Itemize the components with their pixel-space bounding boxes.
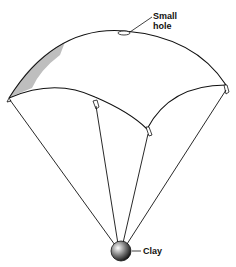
line-left — [10, 100, 115, 245]
parachute-drawing — [0, 0, 236, 267]
small-hole-label-line1: Small — [153, 11, 177, 21]
canopy-bottom-edge-left — [9, 88, 147, 129]
small-hole — [118, 31, 130, 35]
small-hole-label: Small hole — [153, 11, 177, 31]
canopy-bottom-edge-right — [147, 85, 226, 129]
clay-ball — [111, 241, 131, 261]
small-hole-leader — [130, 17, 152, 32]
line-right — [127, 90, 226, 244]
parachute-diagram: Small hole Clay — [0, 0, 236, 267]
small-hole-label-line2: hole — [153, 21, 177, 31]
clay-label: Clay — [143, 246, 162, 256]
line-center — [123, 134, 148, 243]
tab-center — [146, 127, 152, 136]
